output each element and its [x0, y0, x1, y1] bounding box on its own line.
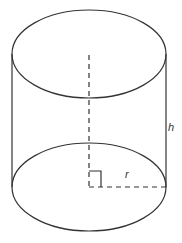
right-angle-marker [89, 171, 101, 187]
cylinder-diagram [0, 0, 182, 243]
radius-label: r [125, 168, 129, 180]
height-label: h [168, 121, 174, 133]
